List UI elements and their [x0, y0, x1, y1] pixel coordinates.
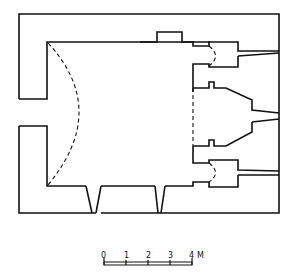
- scale-tick-4: 4: [189, 251, 194, 260]
- scale-tick-2: 2: [146, 251, 151, 260]
- top-niche: [140, 32, 279, 56]
- outer-wall: [19, 14, 279, 213]
- floor-plan-drawing: 0 1 2 3 4 M: [0, 0, 291, 273]
- apse-arc: [48, 43, 79, 185]
- bottom-slits: [86, 186, 165, 213]
- bottom-right-chamber: [165, 146, 279, 187]
- scale-tick-1: 1: [124, 251, 129, 260]
- top-right-chamber: [193, 46, 238, 92]
- scale-bar: 0 1 2 3 4 M: [101, 251, 204, 265]
- scale-tick-0: 0: [101, 251, 106, 260]
- scale-tick-3: 3: [168, 251, 173, 260]
- middle-chamber: [193, 82, 279, 146]
- scale-unit: M: [197, 251, 204, 260]
